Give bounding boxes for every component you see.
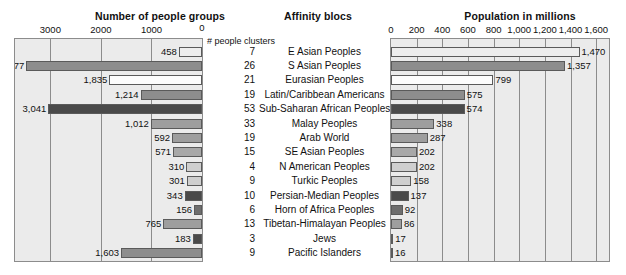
bar-value-label: 1,835 [83, 74, 107, 86]
table-row: 3,477 [15, 59, 202, 73]
right-chart-title: Population in millions [420, 10, 620, 22]
right-axis-tick: 600 [460, 24, 476, 35]
bar-people-groups [185, 191, 202, 201]
table-row: 458 [15, 45, 202, 59]
bar-value-label: 86 [404, 218, 415, 230]
bar-value-label: 592 [154, 132, 170, 144]
bar-value-label: 571 [155, 146, 171, 158]
affinity-bloc-name: Horn of Africa Peoples [259, 203, 390, 217]
bar-value-label: 1,603 [95, 247, 119, 259]
right-axis-tick: 0 [388, 24, 393, 35]
table-row: 592 [15, 131, 202, 145]
table-row: 17 [391, 232, 609, 246]
bar-population [391, 133, 428, 143]
list-item: 19Latin/Caribbean Americans [203, 88, 390, 102]
people-clusters-value: 9 [203, 174, 255, 188]
people-clusters-value: 21 [203, 73, 255, 87]
bar-value-label: 3,477 [14, 60, 24, 72]
bar-value-label: 287 [430, 132, 446, 144]
list-item: 13Tibetan-Himalayan Peoples [203, 217, 390, 231]
table-row: 1,835 [15, 73, 202, 87]
bar-people-groups [141, 90, 202, 100]
bar-value-label: 3,041 [23, 103, 47, 115]
affinity-bloc-name: Tibetan-Himalayan Peoples [259, 217, 390, 231]
table-row: 183 [15, 232, 202, 246]
bar-value-label: 137 [411, 190, 427, 202]
bar-value-label: 158 [413, 175, 429, 187]
people-clusters-value: 10 [203, 189, 255, 203]
left-axis-ticks: 3000200010000 [0, 24, 210, 36]
bar-people-groups [194, 205, 202, 215]
right-axis-tick: 1,600 [584, 24, 608, 35]
bar-people-groups [193, 234, 202, 244]
table-row: 86 [391, 217, 609, 231]
list-item: 33Malay Peoples [203, 117, 390, 131]
bar-people-groups [173, 147, 202, 157]
bar-value-label: 202 [419, 146, 435, 158]
table-row: 343 [15, 189, 202, 203]
right-axis-tick: 400 [434, 24, 450, 35]
table-row: 765 [15, 217, 202, 231]
table-row: 575 [391, 88, 609, 102]
bar-value-label: 16 [395, 247, 406, 259]
bar-value-label: 301 [169, 175, 185, 187]
bar-value-label: 202 [419, 161, 435, 173]
table-row: 1,012 [15, 117, 202, 131]
table-row: 158 [391, 174, 609, 188]
affinity-bloc-name: Sub-Saharan African Peoples [259, 102, 390, 116]
bar-value-label: 343 [167, 190, 183, 202]
table-row: 137 [391, 189, 609, 203]
list-item: 53Sub-Saharan African Peoples [203, 102, 390, 116]
bar-people-groups [121, 248, 202, 258]
bar-population [391, 47, 580, 57]
affinity-bloc-name: N American Peoples [259, 160, 390, 174]
table-row: 1,603 [15, 246, 202, 260]
bar-population [391, 147, 417, 157]
bar-value-label: 1,357 [567, 60, 591, 72]
bar-value-label: 183 [175, 233, 191, 245]
affinity-bloc-name: Pacific Islanders [259, 246, 390, 260]
affinity-bloc-name: E Asian Peoples [259, 45, 390, 59]
bar-value-label: 1,470 [582, 46, 606, 58]
table-row: 287 [391, 131, 609, 145]
bar-people-groups [48, 104, 202, 114]
list-item: 4N American Peoples [203, 160, 390, 174]
table-row: 16 [391, 246, 609, 260]
bar-people-groups [179, 47, 202, 57]
people-clusters-value: 3 [203, 232, 255, 246]
category-table: # people clusters 7E Asian Peoples26S As… [203, 36, 390, 262]
bar-value-label: 574 [467, 103, 483, 115]
bar-population [391, 104, 465, 114]
people-clusters-value: 9 [203, 246, 255, 260]
bar-population [391, 219, 402, 229]
right-axis-tick: 200 [409, 24, 425, 35]
right-axis-tick: 800 [486, 24, 502, 35]
right-axis-tick: 1,000 [507, 24, 531, 35]
bar-value-label: 92 [405, 204, 416, 216]
bar-people-groups [187, 176, 202, 186]
bar-population [391, 191, 409, 201]
bar-value-label: 338 [436, 118, 452, 130]
bar-value-label: 799 [495, 74, 511, 86]
affinity-bloc-name: Latin/Caribbean Americans [259, 88, 390, 102]
bar-population [391, 61, 565, 71]
list-item: 9Pacific Islanders [203, 246, 390, 260]
left-axis-tick: 1000 [141, 24, 162, 35]
bar-people-groups [186, 162, 202, 172]
table-row: 301 [15, 174, 202, 188]
list-item: 15SE Asian Peoples [203, 145, 390, 159]
list-item: 10Persian-Median Peoples [203, 189, 390, 203]
list-item: 3Jews [203, 232, 390, 246]
bar-people-groups [26, 61, 202, 71]
affinity-bloc-name: Arab World [259, 131, 390, 145]
bar-value-label: 575 [467, 89, 483, 101]
bar-value-label: 156 [176, 204, 192, 216]
affinity-bloc-name: Persian-Median Peoples [259, 189, 390, 203]
people-clusters-value: 53 [203, 102, 255, 116]
left-axis-tick: 3000 [40, 24, 61, 35]
bar-value-label: 17 [395, 233, 406, 245]
affinity-bloc-name: S Asian Peoples [259, 59, 390, 73]
table-row: 92 [391, 203, 609, 217]
table-row: 574 [391, 102, 609, 116]
bar-value-label: 765 [145, 218, 161, 230]
